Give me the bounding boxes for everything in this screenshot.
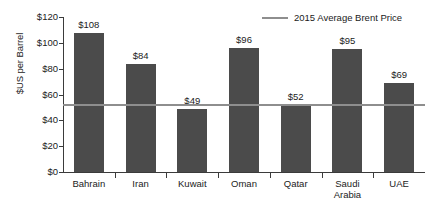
average-brent-price-line	[63, 104, 425, 107]
y-axis-tick-labels: $0$20$40$60$80$100$120	[12, 0, 58, 210]
y-tick-mark	[59, 17, 64, 18]
y-tick-mark	[59, 146, 64, 147]
y-tick-mark	[59, 69, 64, 70]
plot-area: $108$84$49$96$52$95$69 BahrainIranKuwait…	[63, 17, 425, 172]
bar-value-label: $95	[322, 36, 372, 46]
x-tick-label: Iran	[115, 178, 167, 189]
bar	[384, 83, 414, 172]
x-tick-label: Qatar	[270, 178, 322, 189]
y-tick-mark	[59, 43, 64, 44]
bar	[332, 49, 362, 172]
bar	[177, 109, 207, 172]
bar-value-label: $69	[374, 70, 424, 80]
x-tick-label: Bahrain	[63, 178, 115, 189]
bar	[229, 48, 259, 172]
x-axis-line	[63, 172, 425, 173]
legend-line-swatch	[262, 17, 288, 20]
x-tick-mark	[218, 173, 219, 178]
x-tick-mark	[270, 173, 271, 178]
x-tick-mark	[322, 173, 323, 178]
bar-value-label: $84	[116, 51, 166, 61]
x-tick-mark	[166, 173, 167, 178]
bar-value-label: $108	[64, 20, 114, 30]
y-tick-label: $60	[14, 90, 58, 100]
x-tick-label: Oman	[218, 178, 270, 189]
bar	[74, 33, 104, 173]
y-tick-label: $120	[14, 12, 58, 22]
bar	[126, 64, 156, 173]
bar-value-label: $52	[271, 92, 321, 102]
bar-chart: $US per Barrel $0$20$40$60$80$100$120 $1…	[0, 0, 436, 210]
y-tick-label: $0	[14, 167, 58, 177]
y-tick-mark	[59, 172, 64, 173]
y-tick-label: $100	[14, 38, 58, 48]
y-tick-label: $40	[14, 115, 58, 125]
y-tick-mark	[59, 120, 64, 121]
bar-value-label: $96	[219, 35, 269, 45]
x-tick-mark	[373, 173, 374, 178]
x-tick-label: SaudiArabia	[322, 178, 374, 200]
y-tick-label: $20	[14, 141, 58, 151]
y-tick-mark	[59, 95, 64, 96]
x-tick-label: Kuwait	[166, 178, 218, 189]
x-tick-label: UAE	[373, 178, 425, 189]
bar	[281, 105, 311, 172]
y-tick-label: $80	[14, 64, 58, 74]
chart-legend: 2015 Average Brent Price	[262, 13, 402, 23]
legend-label-brent-price: 2015 Average Brent Price	[294, 13, 402, 23]
x-tick-mark	[115, 173, 116, 178]
